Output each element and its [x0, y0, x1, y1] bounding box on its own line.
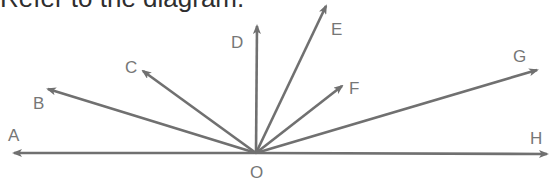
point-label-b: B: [33, 94, 44, 113]
point-label-h: H: [530, 129, 542, 148]
labels-group: ABCDEFGH: [8, 20, 542, 148]
ray-ob: [48, 89, 256, 153]
point-label-f: F: [349, 79, 359, 98]
point-label-g: G: [513, 47, 526, 66]
point-label-a: A: [8, 126, 20, 145]
point-label-d: D: [231, 33, 243, 52]
ray-oc: [143, 71, 256, 153]
ray-oh: [256, 153, 547, 154]
point-label-o: O: [250, 163, 263, 182]
angle-rays-diagram: ABCDEFGH O: [0, 0, 549, 183]
ray-od: [256, 26, 257, 153]
ray-oe: [256, 6, 326, 153]
ray-og: [256, 70, 537, 153]
ray-of: [256, 86, 342, 153]
point-label-c: C: [125, 58, 137, 77]
rays-group: [14, 6, 547, 154]
point-label-e: E: [331, 20, 342, 39]
